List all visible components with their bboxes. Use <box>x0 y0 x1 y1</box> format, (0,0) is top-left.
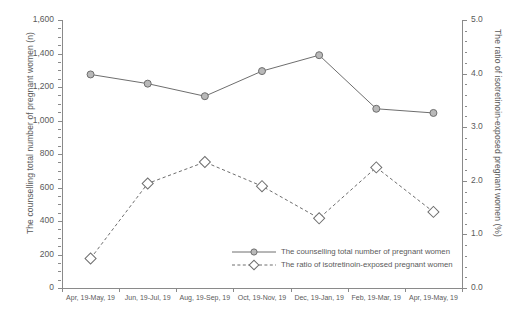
y-right-minor-tick <box>465 149 468 150</box>
y-axis-left-line <box>62 20 63 289</box>
y-left-minor-tick <box>58 28 61 29</box>
data-point-marker <box>144 80 151 87</box>
y-left-minor-tick <box>58 171 61 172</box>
x-axis-tick <box>119 288 120 292</box>
y-left-tick <box>58 154 62 155</box>
data-point-marker <box>201 93 208 100</box>
y-right-tick <box>463 181 467 182</box>
y-right-minor-tick <box>465 267 468 268</box>
y-left-tick-label: 400 <box>20 215 54 225</box>
y-left-minor-tick <box>58 280 61 281</box>
y-left-minor-tick <box>58 246 61 247</box>
y-left-minor-tick <box>58 129 61 130</box>
y-left-minor-tick <box>58 196 61 197</box>
series-line <box>91 55 434 113</box>
x-axis-tick <box>233 288 234 292</box>
y-left-minor-tick <box>58 146 61 147</box>
y-right-tick-label: 2.0 <box>471 175 505 185</box>
chart-legend: The counselling total number of pregnant… <box>231 245 453 271</box>
y-left-minor-tick <box>58 104 61 105</box>
x-axis-tick-label: Apr, 19-May, 19 <box>393 294 473 301</box>
y-left-tick-label: 600 <box>20 182 54 192</box>
y-left-tick-label: 1,600 <box>20 14 54 24</box>
y-left-minor-tick <box>58 238 61 239</box>
data-point-marker <box>314 213 325 224</box>
y-right-minor-tick <box>465 224 468 225</box>
y-right-minor-tick <box>465 52 468 53</box>
y-right-minor-tick <box>465 170 468 171</box>
y-left-minor-tick <box>58 179 61 180</box>
data-point-marker <box>87 71 94 78</box>
x-axis-tick <box>291 288 292 292</box>
y-left-tick-label: 800 <box>20 148 54 158</box>
y-right-minor-tick <box>465 116 468 117</box>
y-right-minor-tick <box>465 256 468 257</box>
x-axis-line <box>62 288 463 289</box>
y-right-minor-tick <box>465 31 468 32</box>
data-point-marker <box>428 206 439 217</box>
y-right-tick-label: 3.0 <box>471 121 505 131</box>
y-left-minor-tick <box>58 229 61 230</box>
x-axis-tick <box>176 288 177 292</box>
dashed-line-diamond-marker-icon <box>231 259 277 271</box>
y-left-minor-tick <box>58 79 61 80</box>
y-right-tick <box>463 74 467 75</box>
y-left-minor-tick <box>58 162 61 163</box>
y-right-tick-label: 1.0 <box>471 228 505 238</box>
x-axis-tick <box>462 288 463 292</box>
legend-label-counselling-total: The counselling total number of pregnant… <box>281 247 450 256</box>
y-right-minor-tick <box>465 213 468 214</box>
y-axis-right-line <box>462 20 463 289</box>
data-point-marker <box>371 162 382 173</box>
y-right-minor-tick <box>465 202 468 203</box>
y-left-minor-tick <box>58 70 61 71</box>
y-left-minor-tick <box>58 263 61 264</box>
y-left-minor-tick <box>58 204 61 205</box>
data-point-marker <box>256 181 267 192</box>
data-point-marker <box>373 105 380 112</box>
legend-item-isotretinoin-ratio: The ratio of isotretinoin-exposed pregna… <box>231 258 453 271</box>
y-left-minor-tick <box>58 213 61 214</box>
y-right-tick <box>463 20 467 21</box>
y-left-minor-tick <box>58 271 61 272</box>
y-right-minor-tick <box>465 106 468 107</box>
y-left-tick <box>58 221 62 222</box>
legend-label-isotretinoin-ratio: The ratio of isotretinoin-exposed pregna… <box>281 260 453 269</box>
y-left-tick-label: 1,000 <box>20 115 54 125</box>
y-right-minor-tick <box>465 41 468 42</box>
y-right-tick-label: 4.0 <box>471 68 505 78</box>
y-right-tick <box>463 127 467 128</box>
y-right-minor-tick <box>465 277 468 278</box>
y-left-tick <box>58 255 62 256</box>
x-axis-tick <box>62 288 63 292</box>
data-point-marker <box>430 109 437 116</box>
chart-container: The counselling total number of pregnant… <box>0 0 525 315</box>
y-left-tick-label: 1,200 <box>20 81 54 91</box>
y-left-tick <box>58 54 62 55</box>
y-right-minor-tick <box>465 84 468 85</box>
y-right-minor-tick <box>465 138 468 139</box>
y-left-tick <box>58 87 62 88</box>
y-right-tick-label: 5.0 <box>471 14 505 24</box>
y-left-tick <box>58 121 62 122</box>
data-point-marker <box>85 253 96 264</box>
y-left-tick <box>58 20 62 21</box>
y-right-minor-tick <box>465 63 468 64</box>
y-left-tick-label: 1,400 <box>20 48 54 58</box>
x-axis-tick <box>405 288 406 292</box>
y-left-minor-tick <box>58 137 61 138</box>
y-left-minor-tick <box>58 112 61 113</box>
y-right-minor-tick <box>465 192 468 193</box>
y-right-tick-label: 0.0 <box>471 282 505 292</box>
y-left-minor-tick <box>58 37 61 38</box>
y-left-minor-tick <box>58 62 61 63</box>
y-right-minor-tick <box>465 245 468 246</box>
y-right-minor-tick <box>465 159 468 160</box>
y-left-minor-tick <box>58 45 61 46</box>
series-counselling-total <box>87 52 437 117</box>
data-point-marker <box>142 178 153 189</box>
y-right-tick <box>463 288 467 289</box>
solid-line-circle-marker-icon <box>231 246 277 258</box>
data-point-marker <box>316 52 323 59</box>
y-left-tick-label: 0 <box>20 282 54 292</box>
